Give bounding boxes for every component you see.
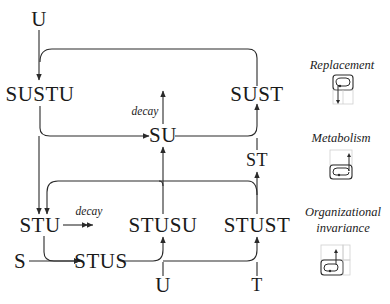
- process-diagram: [0, 0, 390, 304]
- node-stusu: STUSU: [128, 215, 197, 236]
- arrow-stus-to-stusu: [123, 237, 163, 261]
- node-t: T: [251, 276, 263, 294]
- legend-title-invariance: invariance: [316, 221, 369, 236]
- node-su: SU: [149, 125, 177, 146]
- node-u-top: U: [31, 9, 47, 30]
- node-stust: STUST: [224, 215, 291, 236]
- arrow-su-to-sust: [175, 104, 257, 136]
- legend-title-organizational: Organizational: [305, 205, 381, 220]
- node-stu: STU: [19, 215, 60, 236]
- label-decay-stu: decay: [76, 206, 103, 218]
- organizational-invariance-icon: [321, 245, 350, 275]
- node-st: ST: [246, 151, 268, 169]
- node-sustu: SUSTU: [5, 84, 74, 105]
- arrow-sust-loop-to-sustu: [40, 49, 257, 86]
- legend-title-metabolism: Metabolism: [311, 131, 370, 146]
- node-u-bottom: U: [155, 275, 171, 296]
- node-sust: SUST: [230, 84, 283, 105]
- metabolism-icon: [330, 150, 352, 179]
- node-s: S: [14, 251, 26, 272]
- arrow-stus-to-stust: [163, 237, 257, 261]
- label-decay-su: decay: [132, 106, 159, 118]
- legend-title-replacement: Replacement: [310, 58, 375, 73]
- node-stus: STUS: [74, 251, 127, 272]
- replacement-icon: [333, 75, 353, 104]
